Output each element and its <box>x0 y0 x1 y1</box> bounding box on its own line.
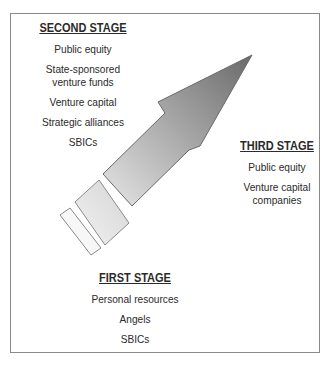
stage-title: FIRST STAGE <box>69 272 201 285</box>
first-stage: FIRST STAGE Personal resources Angels SB… <box>69 272 201 353</box>
stage-title: SECOND STAGE <box>26 22 140 35</box>
stage-item: SBICs <box>69 333 201 346</box>
stage-item: Angels <box>69 313 201 326</box>
stage-item: Venture capital companies <box>243 181 312 207</box>
stage-item: Public equity <box>26 43 140 56</box>
stage-item: State-sponsored venture funds <box>43 63 122 89</box>
second-stage: SECOND STAGE Public equity State-sponsor… <box>26 22 140 156</box>
third-stage: THIRD STAGE Public equity Venture capita… <box>237 140 316 214</box>
stage-item: Strategic alliances <box>26 116 140 129</box>
stage-title: THIRD STAGE <box>237 140 316 153</box>
stage-item: SBICs <box>26 136 140 149</box>
stage-item: Personal resources <box>69 293 201 306</box>
stage-item: Venture capital <box>26 96 140 109</box>
stage-item: Public equity <box>237 161 316 174</box>
